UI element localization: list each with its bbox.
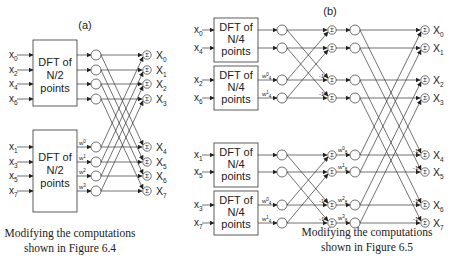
node-circle <box>277 218 287 228</box>
panel-b-caption-line2: shown in Figure 6.5 <box>321 241 413 254</box>
sigma-icon: Σ <box>423 202 427 208</box>
butterfly-cross-wire <box>101 99 143 189</box>
negation-label: -1 <box>319 73 325 79</box>
dft-box-label-line2: N/4 <box>227 158 244 170</box>
node-circle <box>350 150 360 160</box>
dft-box-bottom: DFT of N/2 points <box>33 130 77 212</box>
output-label: X4 <box>156 141 167 155</box>
dft-box-label-line2: N/2 <box>46 69 63 81</box>
node-circle <box>91 79 101 89</box>
dft-box-label-line3: points <box>221 45 251 57</box>
node-circle <box>277 75 287 85</box>
twiddle-weight-label: w0 <box>78 139 86 147</box>
node-circle <box>277 93 287 103</box>
input-label: x0 <box>194 24 203 37</box>
panel-b-caption-line1: Modifying the computations <box>302 226 433 239</box>
dft-box-label-line3: points <box>221 170 251 182</box>
sigma-icon: Σ <box>423 45 427 51</box>
sigma-icon: Σ <box>330 95 334 101</box>
output-label: X1 <box>156 64 167 78</box>
twiddle-weight-label: w14 <box>261 90 272 99</box>
twiddle-weight-label: w2 <box>78 168 86 176</box>
dft-box-label-line1: DFT of <box>38 56 72 68</box>
dft-box-label-line2: N/4 <box>227 33 244 45</box>
butterfly-cross-wire <box>101 57 143 147</box>
sigma-icon: Σ <box>330 202 334 208</box>
butterfly-cross-wire <box>360 80 421 203</box>
output-label: X6 <box>156 170 167 184</box>
butterfly-cross-wire <box>360 100 421 223</box>
input-label: x3 <box>194 199 203 212</box>
negation-label: -1 <box>319 91 325 97</box>
dft-box-label-line3: points <box>40 177 70 189</box>
input-label: x6 <box>9 93 18 106</box>
negation-label: -1 <box>413 148 419 154</box>
sigma-icon: Σ <box>330 27 334 33</box>
input-label: x3 <box>9 156 18 169</box>
output-label: X6 <box>433 199 444 213</box>
dft-box-label-line1: DFT of <box>219 69 253 81</box>
sigma-icon: Σ <box>423 152 427 158</box>
node-circle <box>350 43 360 53</box>
output-label: X7 <box>156 185 167 199</box>
twiddle-weight-label: w3 <box>78 183 86 191</box>
twiddle-weight-label: w14 <box>261 215 272 224</box>
sigma-icon: Σ <box>423 169 427 175</box>
input-label: x1 <box>194 149 203 162</box>
dft-box-top: DFT of N/2 points <box>33 40 77 106</box>
twiddle-weight-label: w1 <box>78 154 86 162</box>
output-label: X5 <box>433 166 444 180</box>
sigma-icon: Σ <box>145 159 149 165</box>
sigma-icon: Σ <box>423 95 427 101</box>
node-circle <box>277 200 287 210</box>
sigma-icon: Σ <box>423 27 427 33</box>
panel-b: (b) DFT ofN/4pointsx0x4DFT ofN/4pointsx2… <box>194 5 444 254</box>
input-label: x7 <box>9 185 18 198</box>
node-circle <box>91 186 101 196</box>
node-circle <box>91 65 101 75</box>
sigma-icon: Σ <box>330 152 334 158</box>
panel-a-caption-line2: shown in Figure 6.4 <box>24 242 116 255</box>
node-circle <box>277 150 287 160</box>
butterfly-cross-wire <box>360 30 421 153</box>
node-circle <box>350 93 360 103</box>
negation-label: -1 <box>413 216 419 222</box>
twiddle-weight-label: w18 <box>337 163 348 172</box>
sigma-icon: Σ <box>145 52 149 58</box>
butterfly-cross-wire <box>287 48 328 96</box>
dft-box-label-line2: N/4 <box>227 206 244 218</box>
node-circle <box>350 75 360 85</box>
node-circle <box>350 200 360 210</box>
output-label: X2 <box>433 74 444 88</box>
input-label: x4 <box>194 42 203 55</box>
input-label: x2 <box>9 64 18 77</box>
input-label: x6 <box>194 92 203 105</box>
twiddle-weight-label: w08 <box>337 146 348 155</box>
output-label: X7 <box>433 217 444 231</box>
twiddle-weight-label: w04 <box>261 197 272 206</box>
node-circle <box>91 50 101 60</box>
input-label: x0 <box>9 49 18 62</box>
butterfly-cross-wire <box>101 84 143 174</box>
butterfly-cross-wire <box>360 98 421 221</box>
butterfly-cross-wire <box>360 82 421 205</box>
output-label: X2 <box>156 78 167 92</box>
dft-box-label-line3: points <box>40 82 70 94</box>
sigma-icon: Σ <box>145 96 149 102</box>
node-circle <box>91 94 101 104</box>
sigma-icon: Σ <box>330 169 334 175</box>
panel-a-caption-line1: Modifying the computations <box>5 227 136 240</box>
panel-a: (a) DFT of N/2 points DFT of N/2 points … <box>5 19 168 255</box>
input-label: x5 <box>194 166 203 179</box>
dft-box-label-line1: DFT of <box>219 194 253 206</box>
panel-a-title: (a) <box>78 19 91 31</box>
input-label: x1 <box>9 141 18 154</box>
node-circle <box>91 171 101 181</box>
dft-box-label-line2: N/4 <box>227 81 244 93</box>
sigma-icon: Σ <box>330 77 334 83</box>
sigma-icon: Σ <box>145 173 149 179</box>
twiddle-weight-label: w04 <box>261 72 272 81</box>
dft-box-label-line1: DFT of <box>38 151 72 163</box>
input-label: x7 <box>194 217 203 230</box>
output-label: X0 <box>433 24 444 38</box>
